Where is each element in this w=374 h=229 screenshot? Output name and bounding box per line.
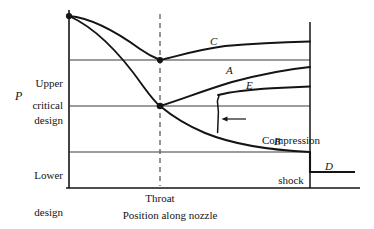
- curve-label-e: E: [246, 79, 253, 91]
- compression-shock-line: [217, 95, 219, 133]
- compression-shock-annotation-line2: shock: [243, 174, 339, 187]
- compression-shock-annotation: Compression shock: [243, 108, 339, 214]
- throat-point-upper-marker: [157, 57, 163, 63]
- curve-a: [69, 16, 310, 106]
- y-axis-symbol: P: [15, 90, 22, 103]
- compression-shock-annotation-line1: Compression: [243, 134, 339, 147]
- nozzle-pressure-diagram: Upper design critical Lower design P C A…: [0, 0, 374, 229]
- axis-label-upper-design-line2: design: [0, 114, 63, 126]
- axis-label-lower-design-line1: Lower: [0, 169, 63, 181]
- compression-shock-arrowhead-icon: [222, 117, 228, 122]
- inlet-point-marker: [66, 13, 72, 19]
- curve-label-a: A: [226, 64, 233, 76]
- throat-label: Throat: [120, 192, 200, 204]
- axis-label-lower-design: Lower design: [0, 144, 63, 229]
- x-axis-caption: Position along nozzle: [80, 209, 260, 221]
- throat-point-critical-marker: [157, 103, 164, 110]
- curve-label-c: C: [210, 35, 217, 47]
- axis-label-upper-design-line1: Upper: [0, 77, 63, 89]
- axis-label-critical: critical: [0, 99, 63, 111]
- curve-c: [69, 16, 310, 60]
- curve-e-subsonic-branch: [218, 87, 310, 96]
- axis-label-lower-design-line2: design: [0, 206, 63, 218]
